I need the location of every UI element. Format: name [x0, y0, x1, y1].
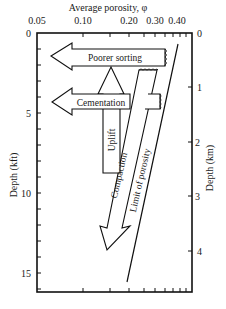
y-left-axis-title: Depth (kft): [8, 153, 20, 198]
cementation-label: Cementation: [77, 98, 126, 108]
y-right-tick-label: 4: [197, 246, 202, 257]
y-left-tick-label: 0: [26, 28, 31, 39]
x-axis-title: Average porosity, φ: [69, 2, 148, 13]
x-tick-label: 0.30: [146, 15, 164, 26]
y-left-tick-label: 5: [26, 108, 31, 119]
y-right-tick-label: 1: [197, 82, 202, 93]
x-tick-label: 0.10: [74, 15, 92, 26]
y-left-tick-label: 10: [21, 188, 31, 199]
y-left-tick-label: 15: [21, 268, 31, 279]
poorer-sorting-label: Poorer sorting: [88, 53, 142, 63]
x-tick-label: 0.20: [120, 15, 138, 26]
porosity-depth-diagram: Average porosity, φ 0.05 0.10 0.20 0.30 …: [0, 0, 226, 309]
y-right-axis-title: Depth (km): [204, 145, 216, 191]
y-right-tick-label: 2: [195, 137, 200, 148]
uplift-label: Uplift: [107, 128, 117, 151]
x-tick-label: 0.40: [168, 15, 186, 26]
x-tick-label: 0.05: [28, 15, 46, 26]
y-right-tick-label: 3: [195, 191, 200, 202]
y-right-tick-label: 0: [197, 28, 202, 39]
